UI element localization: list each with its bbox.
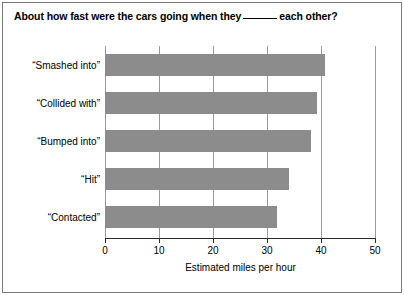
- x-axis-tick: [267, 238, 268, 243]
- bar: [105, 168, 289, 190]
- category-label: “Hit”: [8, 174, 100, 185]
- x-axis-tick-label: 30: [252, 245, 282, 256]
- chart-title: About how fast were the cars going when …: [14, 10, 394, 22]
- chart-figure: About how fast were the cars going when …: [0, 0, 404, 295]
- bar: [105, 92, 317, 114]
- chart-title-suffix: each other?: [279, 10, 337, 22]
- x-axis-tick-label: 10: [144, 245, 174, 256]
- bar: [105, 130, 311, 152]
- x-axis-tick: [375, 238, 376, 243]
- x-axis-tick: [105, 238, 106, 243]
- category-label: “Bumped into”: [8, 136, 100, 147]
- x-axis-tick-label: 20: [198, 245, 228, 256]
- x-axis-tick-label: 0: [90, 245, 120, 256]
- gridline: [375, 46, 376, 238]
- category-label: “Contacted”: [8, 212, 100, 223]
- x-axis-tick: [213, 238, 214, 243]
- title-blank-underline: [243, 18, 277, 19]
- category-label: “Collided with”: [8, 98, 100, 109]
- bar: [105, 54, 325, 76]
- x-axis-tick-label: 40: [306, 245, 336, 256]
- plot-area: [105, 46, 375, 238]
- chart-title-prefix: About how fast were the cars going when …: [14, 10, 241, 22]
- x-axis-tick-label: 50: [360, 245, 390, 256]
- bar: [105, 206, 277, 228]
- x-axis-tick: [159, 238, 160, 243]
- x-axis-tick: [321, 238, 322, 243]
- category-label: “Smashed into”: [8, 60, 100, 71]
- x-axis-line: [105, 238, 376, 239]
- x-axis-label: Estimated miles per hour: [105, 262, 376, 273]
